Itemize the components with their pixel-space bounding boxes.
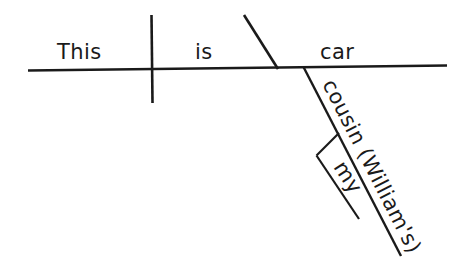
subject-verb-divider-line [152, 15, 153, 103]
label-subject: This [56, 40, 102, 64]
sentence-diagram-svg: This is car cousin (William's) my [0, 0, 463, 274]
label-verb: is [195, 40, 213, 64]
sentence-diagram-canvas: This is car cousin (William's) my [0, 0, 463, 274]
label-predicate-nominative: car [320, 40, 354, 64]
